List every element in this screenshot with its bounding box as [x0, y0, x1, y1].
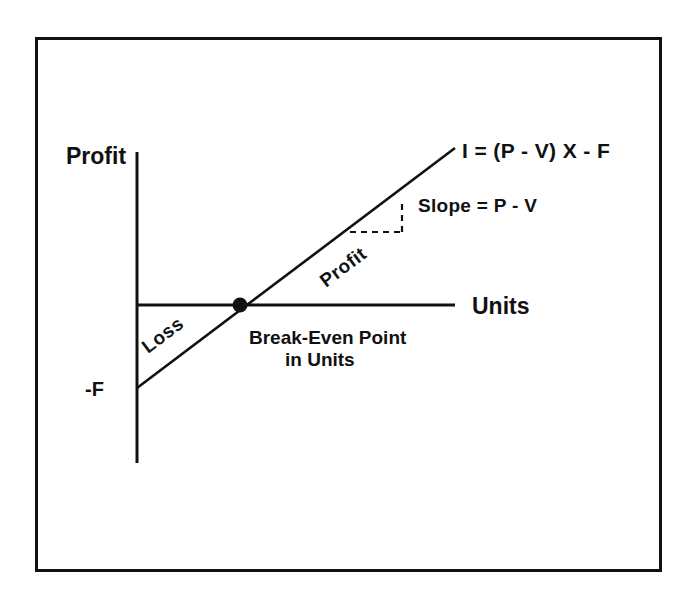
- profit-line-equation-label: I = (P - V) X - F: [462, 139, 610, 162]
- y-intercept-label: -F: [85, 378, 104, 400]
- canvas-background: [0, 0, 697, 601]
- break-even-point-label-line2: in Units: [285, 349, 355, 370]
- y-axis-label: Profit: [66, 143, 126, 169]
- slope-label: Slope = P - V: [418, 195, 537, 216]
- break-even-point-marker: [233, 298, 248, 313]
- diagram-canvas: Profit Units -F I = (P - V) X - F Slope …: [0, 0, 697, 601]
- break-even-point-label-line1: Break-Even Point: [249, 327, 407, 348]
- break-even-diagram: Profit Units -F I = (P - V) X - F Slope …: [0, 0, 697, 601]
- x-axis-label: Units: [472, 293, 530, 319]
